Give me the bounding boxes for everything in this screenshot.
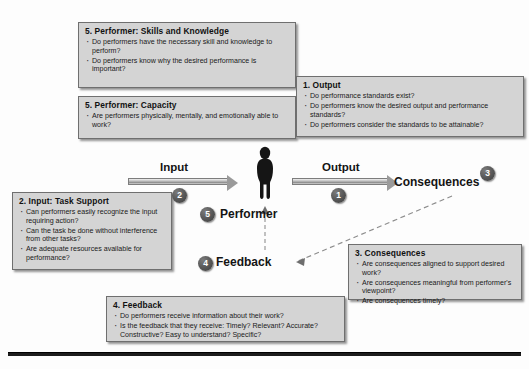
diagram-canvas: 5. Performer: Skills and Knowledge Do pe…	[0, 0, 529, 369]
bullet-item: Are consequences timely?	[355, 297, 516, 306]
bullet-item: Are consequences meaningful from perform…	[355, 279, 516, 296]
panel-bullet-list: Are consequences aligned to support desi…	[355, 260, 516, 306]
panel-output: 1. Output Do performance standards exist…	[296, 76, 524, 137]
bullet-item: Are consequences aligned to support desi…	[355, 260, 516, 277]
bullet-item: Can performers easily recognize the inpu…	[19, 208, 166, 225]
panel-performer-capacity: 5. Performer: Capacity Are performers ph…	[78, 96, 296, 139]
flow-label-feedback: Feedback	[216, 255, 271, 269]
bullet-item: Is the feedback that they receive: Timel…	[113, 322, 339, 339]
badge-output-1: 1	[331, 188, 346, 203]
bullet-item: Are performers physically, mentally, and…	[85, 112, 290, 129]
panel-bullet-list: Do performers have the necessary skill a…	[85, 38, 290, 74]
flow-label-output: Output	[322, 161, 360, 173]
feedback-arrowhead	[296, 258, 305, 266]
panel-title: 2. Input: Task Support	[19, 196, 166, 207]
panel-title: 4. Feedback	[113, 300, 339, 311]
panel-performer-skills: 5. Performer: Skills and Knowledge Do pe…	[78, 22, 296, 88]
panel-title: 1. Output	[303, 80, 518, 91]
bullet-item: Do performers know the desired output an…	[303, 102, 518, 119]
badge-input-2: 2	[172, 188, 187, 203]
output-flow-arrow-icon	[292, 178, 388, 185]
flow-label-input: Input	[160, 161, 188, 173]
panel-title: 5. Performer: Capacity	[85, 100, 290, 111]
person-silhouette-icon	[252, 146, 278, 200]
badge-consequences-3: 3	[480, 166, 495, 181]
bullet-item: Do performers consider the standards to …	[303, 121, 518, 130]
flow-label-performer: Performer	[220, 207, 277, 221]
panel-title: 3. Consequences	[355, 248, 516, 259]
panel-bullet-list: Do performance standards exist? Do perfo…	[303, 92, 518, 129]
input-flow-arrow-icon	[128, 178, 228, 185]
panel-input-task-support: 2. Input: Task Support Can performers ea…	[12, 192, 172, 270]
panel-bullet-list: Are performers physically, mentally, and…	[85, 112, 290, 129]
flow-label-consequences: Consequences	[394, 175, 479, 189]
bullet-item: Do performers have the necessary skill a…	[85, 38, 290, 55]
panel-bullet-list: Can performers easily recognize the inpu…	[19, 208, 166, 263]
bullet-item: Are adequate resources available for per…	[19, 245, 166, 262]
bullet-item: Do performers know why the desired perfo…	[85, 57, 290, 74]
bullet-item: Do performance standards exist?	[303, 92, 518, 101]
panel-consequences: 3. Consequences Are consequences aligned…	[348, 244, 522, 300]
bottom-divider	[8, 352, 521, 356]
bullet-item: Can the task be done without interferenc…	[19, 227, 166, 244]
panel-title: 5. Performer: Skills and Knowledge	[85, 26, 290, 37]
badge-performer-5: 5	[200, 207, 215, 222]
badge-feedback-4: 4	[198, 256, 213, 271]
bullet-item: Do performers receive information about …	[113, 312, 339, 321]
panel-feedback: 4. Feedback Do performers receive inform…	[106, 296, 345, 342]
panel-bullet-list: Do performers receive information about …	[113, 312, 339, 339]
